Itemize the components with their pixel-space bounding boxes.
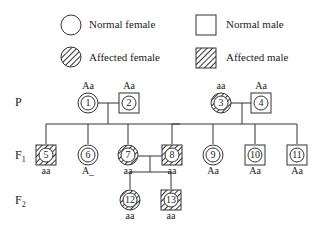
- legend-affected-male: Affected male: [226, 51, 288, 63]
- genotype-2: Aa: [114, 80, 144, 91]
- individual-8-number: 8: [162, 149, 182, 161]
- genotype-13: aa: [156, 210, 186, 221]
- legend-affected-female: Affected female: [89, 51, 160, 63]
- individual-9-number: 9: [203, 149, 223, 161]
- genotype-4: Aa: [246, 80, 276, 91]
- individual-1-number: 1: [78, 97, 98, 109]
- pedigree-diagram: Normal female Normal male Affected femal…: [0, 0, 322, 231]
- individual-10-number: 10: [245, 149, 265, 161]
- individual-4-number: 4: [251, 97, 271, 109]
- genotype-9: Aa: [198, 165, 228, 176]
- genotype-10: Aa: [240, 165, 270, 176]
- genotype-7: aa: [113, 165, 143, 176]
- genotype-5: aa: [31, 165, 61, 176]
- genotype-1: Aa: [73, 80, 103, 91]
- generation-f1-label: F1: [15, 148, 26, 164]
- genotype-12: aa: [115, 210, 145, 221]
- individual-13-number: 13: [161, 194, 181, 206]
- genotype-11: Aa: [282, 165, 312, 176]
- individual-2-number: 2: [119, 97, 139, 109]
- genotype-8: aa: [157, 165, 187, 176]
- individual-5-number: 5: [36, 149, 56, 161]
- individual-12-number: 12: [120, 194, 140, 206]
- generation-f2-label: F2: [15, 193, 26, 209]
- individual-7-number: 7: [118, 149, 138, 161]
- genotype-3: aa: [206, 80, 236, 91]
- legend-normal-male: Normal male: [226, 18, 284, 30]
- individual-6-number: 6: [78, 149, 98, 161]
- legend-normal-female: Normal female: [89, 18, 155, 30]
- individual-3-number: 3: [211, 97, 231, 109]
- individual-11-number: 11: [287, 149, 307, 161]
- generation-p-label: P: [15, 95, 22, 110]
- genotype-6: A_: [73, 165, 103, 176]
